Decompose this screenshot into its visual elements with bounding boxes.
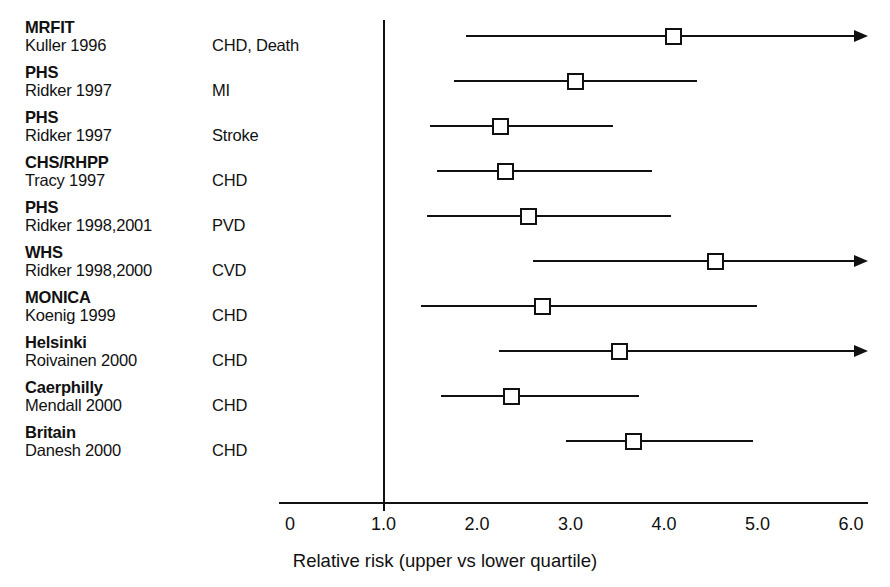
open-interval-arrow-icon	[854, 30, 868, 42]
x-axis-tick-label: 5.0	[745, 514, 770, 535]
point-estimate-marker	[625, 433, 642, 450]
confidence-interval-line	[533, 260, 854, 262]
confidence-interval-line	[437, 170, 652, 172]
point-estimate-marker	[492, 118, 509, 135]
point-estimate-marker	[497, 163, 514, 180]
confidence-interval-line	[427, 215, 671, 217]
x-axis-tick-label: 3.0	[558, 514, 583, 535]
x-axis-tick-label: 4.0	[651, 514, 676, 535]
point-estimate-marker	[707, 253, 724, 270]
x-axis-tick-label: 2.0	[464, 514, 489, 535]
plot-area	[0, 0, 890, 587]
point-estimate-marker	[503, 388, 520, 405]
x-axis-tick	[383, 504, 385, 511]
point-estimate-marker	[567, 73, 584, 90]
x-axis-tick-label: 0	[285, 514, 295, 535]
forest-plot: MRFITKuller 1996CHD, DeathPHSRidker 1997…	[0, 0, 890, 587]
confidence-interval-line	[430, 125, 612, 127]
reference-line-1	[383, 20, 385, 502]
point-estimate-marker	[534, 298, 551, 315]
confidence-interval-line	[466, 35, 854, 37]
x-axis-tick-label: 6.0	[838, 514, 863, 535]
x-axis-tick-label: 1.0	[371, 514, 396, 535]
x-axis-line	[279, 502, 868, 504]
confidence-interval-line	[566, 440, 753, 442]
confidence-interval-line	[421, 305, 758, 307]
point-estimate-marker	[611, 343, 628, 360]
open-interval-arrow-icon	[854, 255, 868, 267]
point-estimate-marker	[520, 208, 537, 225]
open-interval-arrow-icon	[854, 345, 868, 357]
confidence-interval-line	[441, 395, 638, 397]
confidence-interval-line	[499, 350, 854, 352]
x-axis-title: Relative risk (upper vs lower quartile)	[0, 550, 890, 572]
point-estimate-marker	[665, 28, 682, 45]
